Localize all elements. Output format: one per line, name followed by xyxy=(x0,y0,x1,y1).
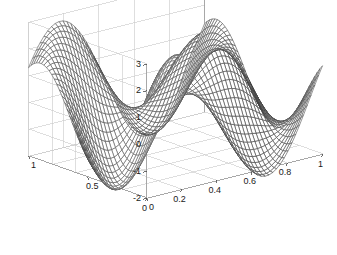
x-tick-label-1: 0.2 xyxy=(173,195,186,204)
x-tick-label-0: 0 xyxy=(142,204,147,213)
y-tick-label-2: 1 xyxy=(31,161,36,170)
z-tick-label-0: -2 xyxy=(133,194,141,203)
x-tick-label-3: 0.6 xyxy=(244,177,257,186)
z-tick-label-5: 3 xyxy=(136,60,141,69)
mesh-surface xyxy=(29,19,323,190)
y-tick-label-1: 0.5 xyxy=(86,182,99,191)
z-tick-label-1: -1 xyxy=(133,167,141,176)
z-tick-label-2: 0 xyxy=(136,140,141,149)
x-tick-label-5: 1 xyxy=(318,160,323,169)
x-tick-label-2: 0.4 xyxy=(208,186,221,195)
z-tick-label-3: 1 xyxy=(136,113,141,122)
surface-plot-svg xyxy=(0,0,337,255)
z-tick-label-4: 2 xyxy=(136,86,141,95)
y-tick-label-0: 0 xyxy=(149,203,154,212)
x-tick-label-4: 0.8 xyxy=(279,168,292,177)
figure-canvas: -2-1012300.5100.20.40.60.81 xyxy=(0,0,337,255)
